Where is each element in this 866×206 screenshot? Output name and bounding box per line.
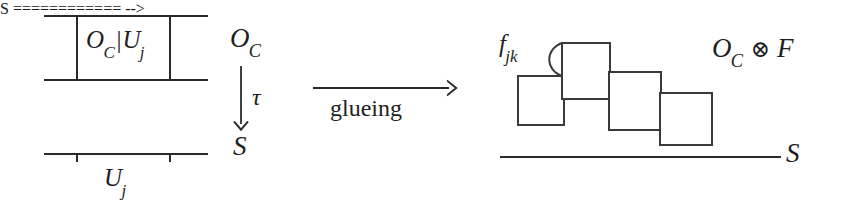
restriction-label: OC|Uj xyxy=(86,27,145,57)
left-base-line xyxy=(44,153,208,155)
base-open-set-sub: j xyxy=(121,181,126,200)
restriction-label-U: U xyxy=(122,26,140,53)
left-strip-top-line xyxy=(44,15,208,17)
gluing-map-label: fjk xyxy=(499,31,518,61)
left-strip-right-vertical xyxy=(169,15,171,81)
tensor-operator-icon: ⊗ xyxy=(744,37,777,62)
left-strip-left-vertical xyxy=(76,15,78,81)
glued-square-1 xyxy=(517,75,565,126)
projection-source-O: O xyxy=(230,23,250,53)
glueing-arrow-label: glueing xyxy=(330,96,402,120)
right-base-line xyxy=(500,156,781,158)
left-base-tick-end xyxy=(169,153,171,162)
projection-target-label: S xyxy=(233,133,247,160)
math-figure-glueing: OC|Uj Uj S ============ --> OC τ S gluei… xyxy=(0,0,866,206)
restriction-label-O: O xyxy=(86,26,104,53)
tensor-object-label: OC⊗F xyxy=(712,35,794,67)
base-open-set-U: U xyxy=(104,164,122,191)
left-base-tick-start xyxy=(76,153,78,162)
tensor-left-O: O xyxy=(712,33,732,63)
tensor-left-sub: C xyxy=(731,51,743,71)
restriction-label-U-sub: j xyxy=(140,43,145,62)
glued-square-3 xyxy=(608,71,662,131)
projection-arrow-label-tau: τ xyxy=(252,85,261,109)
projection-source-sub: C xyxy=(249,41,261,61)
restriction-label-O-sub: C xyxy=(103,43,114,62)
tensor-right-F: F xyxy=(777,33,794,63)
left-strip-bottom-line xyxy=(44,79,208,81)
gluing-map-sub: jk xyxy=(505,47,517,66)
projection-source-label: OC xyxy=(230,25,262,57)
right-base-label-S: S xyxy=(786,140,800,167)
glued-square-4 xyxy=(659,92,713,146)
base-open-set-label: Uj xyxy=(104,165,127,195)
glued-square-2 xyxy=(561,42,611,100)
